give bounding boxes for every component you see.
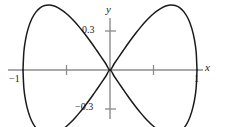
y-axis-label: y: [106, 4, 111, 15]
plot-canvas: [0, 0, 227, 127]
x-tick-label-negative-one: −1: [9, 74, 20, 84]
plot-figure: y x 0.3 −0.3 −1 1: [0, 0, 227, 127]
axes-group: [8, 18, 203, 119]
y-tick-label-negative: −0.3: [75, 102, 93, 112]
x-axis-label: x: [205, 62, 210, 73]
x-tick-label-positive-one: 1: [194, 74, 199, 84]
y-tick-label-positive: 0.3: [82, 25, 95, 35]
